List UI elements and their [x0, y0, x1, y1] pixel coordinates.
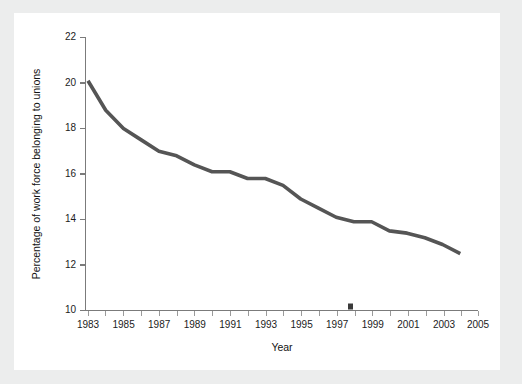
x-tick-label-1989: 1989	[184, 319, 207, 330]
chart-screenshot: 22 20 18 16 14 12 10	[0, 0, 522, 384]
x-tick-label-1987: 1987	[148, 319, 171, 330]
y-tick-label-18: 18	[65, 122, 77, 133]
y-tick-label-14: 14	[65, 213, 77, 224]
x-tick-label-2003: 2003	[433, 319, 456, 330]
x-tick-label-2005: 2005	[467, 319, 490, 330]
y-axis-ticks: 22 20 18 16 14 12 10	[65, 31, 86, 315]
x-tick-label-1991: 1991	[219, 319, 242, 330]
axis-smudge-artifact	[348, 304, 353, 310]
x-tick-label-1983: 1983	[77, 319, 100, 330]
x-tick-label-1999: 1999	[362, 319, 385, 330]
x-tick-label-1995: 1995	[290, 319, 313, 330]
y-tick-label-22: 22	[65, 31, 77, 42]
x-tick-label-2001: 2001	[397, 319, 420, 330]
x-axis-labels: 1983 1985 1987 1989 1991 1993 1995 1997 …	[77, 319, 490, 330]
y-tick-label-12: 12	[65, 259, 77, 270]
figure-panel: 22 20 18 16 14 12 10	[14, 13, 500, 370]
x-tick-label-1985: 1985	[112, 319, 135, 330]
x-axis-ticks	[88, 311, 478, 317]
x-axis-title: Year	[271, 341, 293, 353]
x-tick-label-1993: 1993	[255, 319, 278, 330]
y-axis-title: Percentage of work force belonging to un…	[30, 69, 42, 280]
y-tick-label-20: 20	[65, 77, 77, 88]
y-tick-label-16: 16	[65, 168, 77, 179]
line-chart: 22 20 18 16 14 12 10	[14, 13, 500, 370]
x-tick-label-1997: 1997	[326, 319, 349, 330]
data-series-line	[88, 81, 460, 254]
y-tick-label-10: 10	[65, 304, 77, 315]
